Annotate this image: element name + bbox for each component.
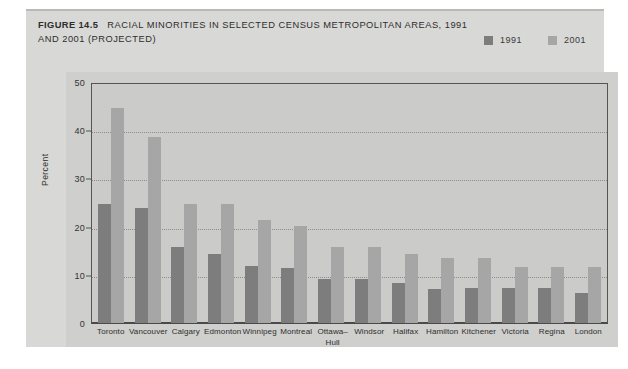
x-axis-label-line: Hull [314, 338, 351, 349]
x-axis-label-line: Halifax [387, 327, 424, 338]
bar-2001[interactable] [111, 108, 124, 323]
bar-group [93, 84, 130, 323]
x-axis-label: Calgary [168, 327, 205, 348]
bar-group [570, 84, 607, 323]
x-axis-label-line: Windsor [351, 327, 388, 338]
x-axis-label: Montreal [278, 327, 315, 348]
legend-swatch-2001-icon [548, 36, 557, 45]
x-axis-label: Toronto [93, 327, 130, 348]
bar-group [129, 84, 166, 323]
bar-2001[interactable] [405, 254, 418, 323]
bar-1991[interactable] [171, 247, 184, 323]
x-axis-label-line: Hamilton [424, 327, 461, 338]
bar-group [313, 84, 350, 323]
bar-2001[interactable] [551, 267, 564, 323]
bar-2001[interactable] [588, 267, 601, 323]
bars-layer [93, 84, 607, 323]
y-tick-label-10: 10 [74, 271, 85, 281]
bar-1991[interactable] [355, 279, 368, 323]
figure-number: FIGURE 14.5 [38, 20, 98, 30]
x-axis-label: Edmonton [204, 327, 241, 348]
x-axis-label: Windsor [351, 327, 388, 348]
bar-2001[interactable] [515, 267, 528, 323]
x-axis-labels: TorontoVancouverCalgaryEdmontonWinnipegM… [93, 327, 607, 348]
y-tick-label-20: 20 [74, 223, 85, 233]
x-axis-label: Vancouver [129, 327, 168, 348]
x-axis-label-line: Vancouver [129, 327, 168, 338]
x-axis-label: Winnipeg [241, 327, 278, 348]
figure-caption: FIGURE 14.5 RACIAL MINORITIES IN SELECTE… [38, 18, 468, 46]
x-axis-label: Hamilton [424, 327, 461, 348]
x-axis-label-line: Ottawa– [314, 327, 351, 338]
x-axis-label: Ottawa–Hull [314, 327, 351, 348]
bar-group [496, 84, 533, 323]
bar-group [203, 84, 240, 323]
bar-2001[interactable] [184, 204, 197, 324]
bar-2001[interactable] [221, 204, 234, 324]
y-tick-label-30: 30 [74, 174, 85, 184]
x-axis-label-line: London [570, 327, 607, 338]
x-axis-label: London [570, 327, 607, 348]
x-axis-label: Victoria [497, 327, 534, 348]
bar-group [533, 84, 570, 323]
bar-2001[interactable] [294, 226, 307, 323]
x-axis-label-line: Edmonton [204, 327, 241, 338]
bar-2001[interactable] [478, 258, 491, 323]
bar-1991[interactable] [98, 204, 111, 324]
figure-card: FIGURE 14.5 RACIAL MINORITIES IN SELECTE… [26, 11, 604, 347]
bar-1991[interactable] [575, 293, 588, 323]
bar-2001[interactable] [368, 247, 381, 323]
legend-item-2001: 2001 [548, 35, 586, 45]
y-tick-label-0: 0 [80, 319, 85, 329]
figure-header: FIGURE 14.5 RACIAL MINORITIES IN SELECTE… [38, 18, 594, 58]
chart-legend: 1991 2001 [484, 35, 586, 45]
x-axis-label-line: Calgary [168, 327, 205, 338]
x-axis-label-line: Victoria [497, 327, 534, 338]
bar-1991[interactable] [428, 289, 441, 323]
x-axis-label-line: Kitchener [460, 327, 497, 338]
bar-1991[interactable] [392, 283, 405, 323]
bar-group [386, 84, 423, 323]
bar-2001[interactable] [148, 137, 161, 323]
bar-group [350, 84, 387, 323]
bar-1991[interactable] [208, 254, 221, 323]
bar-1991[interactable] [318, 279, 331, 323]
bar-group [276, 84, 313, 323]
y-axis-title: Percent [40, 154, 50, 186]
bar-group [166, 84, 203, 323]
y-tick-label-50: 50 [74, 78, 85, 88]
x-axis-label-line: Toronto [93, 327, 130, 338]
bar-1991[interactable] [135, 208, 148, 323]
y-axis-tick-labels: 50403020100 [62, 83, 85, 324]
x-axis-label-line: Montreal [278, 327, 315, 338]
bar-1991[interactable] [245, 266, 258, 323]
x-axis-label-line: Regina [534, 327, 571, 338]
bar-1991[interactable] [465, 288, 478, 323]
x-axis-label: Halifax [387, 327, 424, 348]
legend-label-1991: 1991 [500, 35, 522, 45]
bar-1991[interactable] [538, 288, 551, 323]
legend-swatch-1991-icon [484, 36, 493, 45]
bar-1991[interactable] [502, 288, 515, 323]
bar-group [239, 84, 276, 323]
bar-1991[interactable] [281, 268, 294, 323]
x-axis-label-line: Winnipeg [241, 327, 278, 338]
bar-2001[interactable] [258, 220, 271, 323]
figure-screenshot: FIGURE 14.5 RACIAL MINORITIES IN SELECTE… [0, 0, 628, 369]
bar-group [460, 84, 497, 323]
x-axis-label: Kitchener [460, 327, 497, 348]
legend-item-1991: 1991 [484, 35, 522, 45]
legend-label-2001: 2001 [564, 35, 586, 45]
bar-2001[interactable] [441, 258, 454, 323]
x-axis-label: Regina [534, 327, 571, 348]
bar-group [423, 84, 460, 323]
bar-2001[interactable] [331, 247, 344, 323]
y-tick-label-40: 40 [74, 126, 85, 136]
